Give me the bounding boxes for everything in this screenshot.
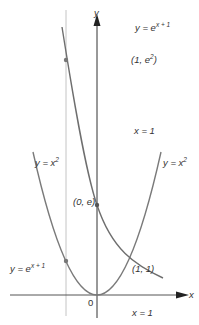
point-1-1-label: (1, 1) [132,264,154,274]
parabola-label-left: y = x2 [35,158,59,168]
point-upper-guide [64,58,68,62]
origin-label: 0 [88,298,93,308]
exp-label-top: y = ex + 1 [135,23,170,33]
x-axis-arrow-icon [176,292,189,299]
parabola-label-right: y = x2 [163,158,187,168]
point-0-e [95,203,99,207]
point-lower-guide [64,259,68,263]
vertical-line-label-upper: x = 1 [134,126,155,136]
exp-label-bottom: y = ex + 1 [10,264,45,274]
point-1-e2-label: (1, e2) [131,55,157,65]
point-0-e-label: (0, e) [73,197,95,207]
y-axis-label: y [94,8,99,18]
x-axis-label: x [189,290,194,300]
vertical-line-label-lower: x = 1 [132,308,153,318]
